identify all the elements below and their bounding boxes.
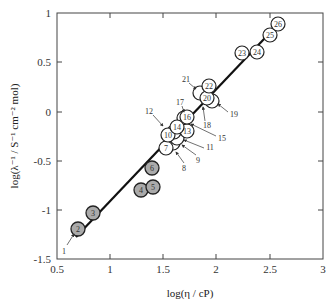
x-tick-labels: 0.5 1 1.5 2 2.5 3 [50,263,326,275]
chart: 0.5 1 1.5 2 2.5 3 1 0.5 0 -0.5 -1 -1.5 l… [0,0,333,307]
svg-text:10: 10 [164,131,172,140]
svg-text:2: 2 [76,225,80,234]
svg-text:1: 1 [62,247,66,256]
svg-text:0.5: 0.5 [37,56,51,68]
filled-points [71,161,160,236]
svg-text:0.5: 0.5 [50,263,64,275]
svg-text:3: 3 [91,209,95,218]
svg-text:17: 17 [176,98,184,107]
svg-text:0: 0 [46,106,52,118]
svg-text:6: 6 [150,164,154,173]
svg-text:-1.5: -1.5 [34,253,52,265]
svg-text:12: 12 [145,107,153,116]
svg-text:-1: -1 [42,204,51,216]
svg-text:1: 1 [46,7,52,19]
svg-text:1: 1 [107,263,113,275]
svg-text:19: 19 [230,110,238,119]
svg-text:-0.5: -0.5 [34,155,52,167]
svg-text:22: 22 [205,82,213,91]
svg-text:2: 2 [213,263,219,275]
svg-text:21: 21 [182,75,190,84]
svg-text:15: 15 [218,134,226,143]
svg-text:20: 20 [203,94,211,103]
svg-text:24: 24 [253,48,261,57]
x-axis-title: log(η / cP) [167,287,214,300]
svg-text:14: 14 [173,123,181,132]
svg-text:25: 25 [266,31,274,40]
svg-text:7: 7 [164,144,168,153]
svg-text:5: 5 [151,183,155,192]
svg-text:18: 18 [203,121,211,130]
svg-text:2.5: 2.5 [263,263,277,275]
svg-text:9: 9 [196,156,200,165]
svg-text:23: 23 [238,49,246,58]
svg-text:13: 13 [183,127,191,136]
svg-text:16: 16 [183,113,191,122]
svg-text:8: 8 [182,164,186,173]
svg-text:3: 3 [320,263,326,275]
svg-text:11: 11 [206,143,214,152]
y-axis-title: log(λ⁻¹ / S⁻¹ cm⁻² mol) [8,83,21,188]
svg-text:26: 26 [274,20,282,29]
svg-text:1.5: 1.5 [156,263,170,275]
svg-text:4: 4 [139,186,143,195]
y-tick-labels: 1 0.5 0 -0.5 -1 -1.5 [34,7,52,265]
